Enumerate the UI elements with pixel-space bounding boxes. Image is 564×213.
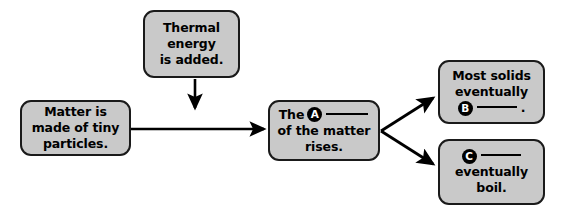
answer-marker-c: C [462, 149, 477, 164]
most-solids-line-2: eventually [455, 84, 528, 100]
matter-rises-line-1: The A [279, 107, 370, 123]
flowchart-diagram: Thermal energy is added. Matter is made … [0, 0, 564, 213]
arrow-middle-to-solids [381, 98, 433, 131]
thermal-energy-line-3: is added. [160, 52, 224, 68]
answer-blank-c[interactable] [481, 154, 521, 156]
matter-rises-line-3: rises. [305, 139, 343, 155]
matter-rises-node: The A of the matter rises. [268, 100, 380, 161]
matter-rises-line-2: of the matter [278, 123, 371, 139]
answer-marker-a: A [307, 107, 322, 122]
matter-particles-node: Matter is made of tiny particles. [20, 100, 131, 156]
matter-rises-prefix: The [279, 107, 305, 123]
matter-particles-line-1: Matter is [44, 104, 107, 120]
answer-blank-a[interactable] [326, 113, 368, 115]
arrow-middle-to-boil [381, 131, 433, 164]
thermal-energy-line-2: energy [167, 36, 216, 52]
eventually-boil-node: C eventually boil. [438, 139, 545, 205]
eventually-boil-line-1: C [462, 149, 522, 164]
answer-blank-b[interactable] [477, 106, 517, 108]
most-solids-node: Most solids eventually B . [438, 60, 545, 124]
most-solids-period: . [521, 100, 526, 116]
most-solids-line-1: Most solids [452, 68, 531, 84]
thermal-energy-node: Thermal energy is added. [143, 10, 240, 78]
matter-particles-line-2: made of tiny [32, 120, 120, 136]
matter-particles-line-3: particles. [43, 136, 108, 152]
thermal-energy-line-1: Thermal [163, 20, 220, 36]
eventually-boil-line-3: boil. [476, 180, 506, 196]
most-solids-line-3: B . [458, 100, 526, 116]
eventually-boil-line-2: eventually [455, 164, 528, 180]
answer-marker-b: B [458, 101, 473, 116]
